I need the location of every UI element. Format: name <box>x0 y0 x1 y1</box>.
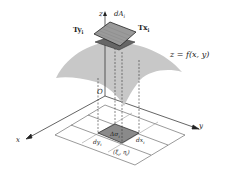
surface-equation-label: z = f(x, y) <box>169 50 209 59</box>
x-axis-arrow-icon <box>26 134 32 139</box>
y-axis-label: y <box>198 122 204 130</box>
origin-label: O <box>97 88 103 96</box>
dA-label: dAi <box>114 10 126 19</box>
surface-z-f-xy <box>56 42 182 106</box>
z-axis-arrow-icon <box>103 11 107 16</box>
Tx-label: Txi <box>138 23 149 33</box>
Ty-label: Tyi <box>73 25 84 35</box>
z-axis-label: z <box>98 10 103 18</box>
y-axis-arrow-icon <box>192 125 199 129</box>
x-axis-label: x <box>16 136 20 144</box>
surface-area-diagram: z dAi Tyi Txi z = f(x, y) O y x Δσi dyi … <box>0 0 232 178</box>
